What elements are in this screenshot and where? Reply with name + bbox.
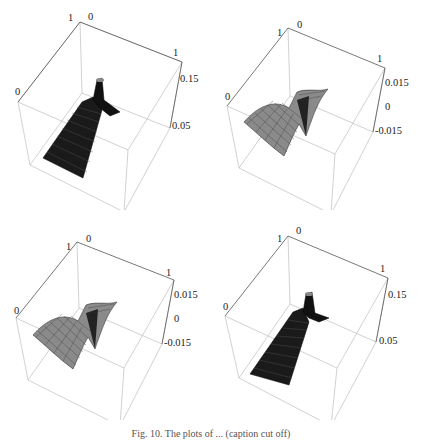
y-tick-label: 0 xyxy=(296,226,301,237)
z-tick-label: -0.015 xyxy=(375,126,402,137)
surface-plot-3d xyxy=(0,0,211,210)
plot-panel-top-right: 0 1 0 1 0.015 0 -0.015 xyxy=(211,0,422,210)
y-tick-label: 0 xyxy=(297,20,302,31)
y-tick-label: 1 xyxy=(68,13,73,24)
z-tick-label: -0.015 xyxy=(164,338,191,349)
y-tick-label: 0 xyxy=(86,234,91,245)
z-tick-label: 0 xyxy=(174,314,179,325)
surface-plot-3d xyxy=(211,0,422,210)
surface-mesh xyxy=(43,78,120,178)
y-tick-label: 1 xyxy=(66,242,71,253)
x-tick-label: 1 xyxy=(377,54,382,65)
x-tick-label: 0 xyxy=(225,92,230,103)
plot-panel-bottom-right: 0 1 0 1 0.15 0.05 xyxy=(211,210,422,420)
z-tick-label: 0 xyxy=(385,102,390,113)
z-tick-label: 0.05 xyxy=(172,121,190,132)
y-tick-label: 1 xyxy=(277,28,282,39)
x-tick-label: 0 xyxy=(14,306,19,317)
x-tick-label: 1 xyxy=(380,264,385,275)
surface-mesh xyxy=(250,292,329,385)
plot-panel-top-left: 0 1 0 1 0.15 0.05 xyxy=(0,0,211,210)
z-tick-label: 0.15 xyxy=(180,74,198,85)
z-tick-label: 0.15 xyxy=(388,290,406,301)
y-tick-label: 0 xyxy=(88,12,93,23)
surface-plot-3d xyxy=(0,210,211,420)
surface-mesh xyxy=(244,89,328,156)
surface-plot-3d xyxy=(211,210,422,420)
x-tick-label: 1 xyxy=(166,268,171,279)
figure-caption: Fig. 10. The plots of ... (caption cut o… xyxy=(0,428,422,440)
z-tick-label: 0.015 xyxy=(385,78,409,89)
x-tick-label: 1 xyxy=(173,48,178,59)
x-tick-label: 0 xyxy=(223,302,228,313)
y-tick-label: 1 xyxy=(277,234,282,245)
x-tick-label: 0 xyxy=(15,87,20,98)
z-tick-label: 0.05 xyxy=(379,336,397,347)
plot-panel-bottom-left: 0 1 0 1 0.015 0 -0.015 xyxy=(0,210,211,420)
z-tick-label: 0.015 xyxy=(174,290,198,301)
